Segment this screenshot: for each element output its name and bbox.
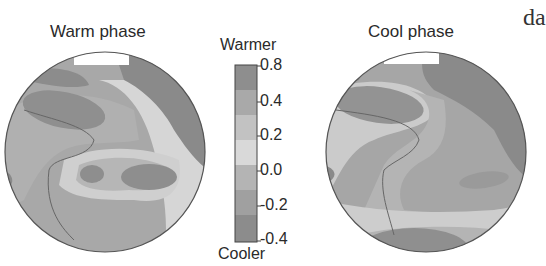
tick-label: -0.2	[260, 196, 288, 214]
colorbar	[234, 64, 264, 244]
tick-label: 0.8	[260, 56, 282, 74]
tick-label: 0.0	[260, 161, 282, 179]
page-text-fragment: da	[523, 4, 546, 31]
warm-phase-title: Warm phase	[50, 22, 146, 42]
colorbar-top-label: Warmer	[220, 36, 276, 54]
cool-phase-globe	[324, 50, 530, 256]
warm-phase-globe	[4, 50, 208, 256]
tick-label: 0.4	[260, 92, 282, 110]
tick-label: 0.2	[260, 126, 282, 144]
colorbar-bottom-label: Cooler	[218, 245, 265, 263]
cool-phase-title: Cool phase	[368, 22, 454, 42]
